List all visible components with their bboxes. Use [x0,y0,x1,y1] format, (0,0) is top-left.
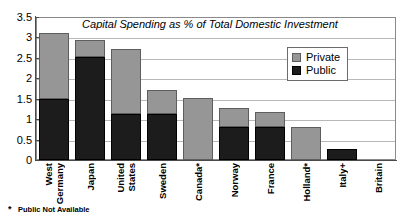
x-axis-label: Sweden [147,163,177,217]
x-axis-label: UnitedStates [111,163,141,217]
x-axis-line [35,160,397,161]
y-tick-label: 3 [26,32,32,43]
bar-segment-public[interactable] [39,99,69,160]
y-tick-mark [35,160,39,161]
x-axis-label-line: Norway [229,163,240,197]
bar-segment-private[interactable] [39,33,69,98]
bar-segment-private[interactable] [147,90,177,115]
bar-group[interactable] [183,17,213,160]
x-axis-label-line: Japan [85,163,96,190]
chart-container: 00.511.522.533.5 Capital Spending as % o… [0,0,418,219]
bar-segment-public[interactable] [327,149,357,160]
bar-segment-private[interactable] [219,108,249,127]
bar-segment-public[interactable] [111,114,141,160]
x-axis-label-line: West [43,163,54,186]
bar-segment-public[interactable] [147,114,177,160]
y-tick-label: 3.5 [17,12,32,23]
bar-segment-private[interactable] [255,112,285,127]
x-axis-label: Britain [363,163,393,217]
x-axis-label-line: France [265,163,276,194]
x-axis-label-line: Holland* [301,163,312,202]
bar-segment-private[interactable] [291,127,321,160]
y-tick-label: 0 [26,155,32,166]
x-axis-label-line: Canada* [193,163,204,201]
y-tick-label: 1 [26,114,32,125]
bar-group[interactable] [111,17,141,160]
x-axis-label-line: United [115,163,126,193]
x-axis-label-line: Sweden [157,163,168,199]
y-tick-label: 2.5 [17,52,32,63]
bar-segment-public[interactable] [255,127,285,161]
y-tick-label: 0.5 [17,134,32,145]
y-tick-label: 2 [26,73,32,84]
x-axis-label: Holland* [291,163,321,217]
bar-segment-private[interactable] [111,49,141,114]
y-tick-label: 1.5 [17,93,32,104]
bar-segment-private[interactable] [75,40,105,56]
x-axis-label: France [255,163,285,217]
x-axis-label-line: Britain [373,163,384,193]
x-axis-label: Japan [75,163,105,217]
bar-segment-public[interactable] [75,57,105,160]
bar-group[interactable] [363,17,393,160]
bar-group[interactable] [147,17,177,160]
bar-group[interactable] [39,17,69,160]
x-axis-label-line: States [126,163,137,192]
bar-group[interactable] [75,17,105,160]
x-axis-label: Norway [219,163,249,217]
bar-group[interactable] [291,17,321,160]
y-axis: 00.511.522.533.5 [0,0,32,219]
bar-segment-public[interactable] [219,127,249,161]
bar-segment-private[interactable] [183,98,213,160]
x-axis-label: Canada* [183,163,213,217]
bar-group[interactable] [255,17,285,160]
footnote-marker: * [8,204,12,214]
bar-group[interactable] [327,17,357,160]
x-axis-label-line: Italy+ [337,163,348,188]
x-axis-label: Italy+ [327,163,357,217]
bar-group[interactable] [219,17,249,160]
x-axis-label-line: Germany [54,163,65,204]
x-axis-label: WestGermany [39,163,69,217]
